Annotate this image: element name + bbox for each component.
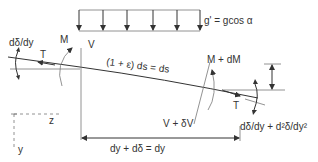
left-moment-arc [60,48,72,86]
load-label: g' = gcos α [204,15,253,26]
right-section-line [194,62,210,124]
beam-free-body-diagram: g' = gcos α T dδ/dy M V (1 + ε) ds = ds … [0,0,318,162]
left-shear-label: V [88,39,95,50]
right-tension-arrow [222,90,240,96]
right-moment-arc [208,70,214,110]
left-slope-arc [16,51,19,76]
left-slope-label: dδ/dy [9,37,33,48]
load-arrows [79,10,200,30]
right-moment-label: M + dM [207,54,241,65]
axes-indicator: z y [11,114,60,155]
left-moment-label: M [60,34,68,45]
right-slope-label: dδ/dy + d²δ/dy² [240,121,308,132]
right-shear-label: V + δV [163,118,194,129]
distributed-load: g' = gcos α [79,10,253,31]
left-tension-label: T [40,49,46,60]
right-tension-label: T [233,100,239,111]
right-tangent-line [245,99,265,105]
horizontal-dimension-label: dy + dδ = dy [110,143,165,154]
axis-y-label: y [18,144,23,155]
axis-z-label: z [49,115,54,126]
